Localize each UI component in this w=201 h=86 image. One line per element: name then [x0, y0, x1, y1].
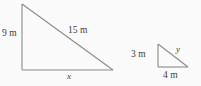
large-triangle-hypotenuse	[22, 4, 113, 70]
large-triangle-vertical-leg-label: 9 m	[2, 29, 17, 39]
small-triangle-shape	[158, 44, 188, 67]
small-triangle-hypotenuse	[158, 44, 188, 67]
large-triangle-base-label: x	[67, 72, 71, 81]
large-triangle-hypotenuse-label: 15 m	[68, 26, 87, 36]
small-triangle-hypotenuse-label: y	[176, 45, 180, 54]
small-triangle-base-label: 4 m	[163, 71, 178, 81]
geometry-figure: 9 m 15 m x 3 m y 4 m	[0, 0, 201, 86]
small-triangle-vertical-leg-label: 3 m	[131, 50, 146, 60]
large-triangle-shape	[22, 4, 113, 70]
